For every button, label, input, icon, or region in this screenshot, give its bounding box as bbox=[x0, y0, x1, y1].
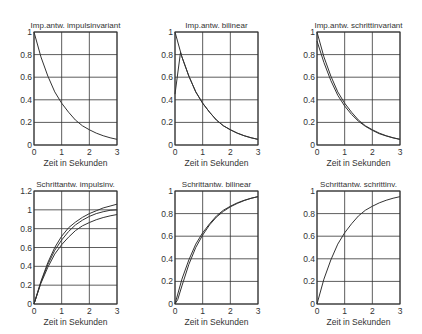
y-tick-label: 0.2 bbox=[303, 117, 315, 127]
y-tick-label: 0.6 bbox=[20, 72, 32, 82]
y-tick-label: 0.4 bbox=[303, 95, 315, 105]
y-tick-label: 0.4 bbox=[303, 254, 315, 264]
y-tick-label: 0 bbox=[310, 140, 315, 150]
x-tick-label: 1 bbox=[200, 306, 205, 316]
y-tick-label: 0.8 bbox=[20, 50, 32, 60]
subplot-title: Imp.antw. impulsinvariant bbox=[31, 21, 122, 30]
series-line bbox=[34, 215, 117, 304]
y-tick-label: 0.2 bbox=[161, 117, 173, 127]
series-line bbox=[175, 32, 258, 139]
y-tick-label: 0.2 bbox=[161, 276, 173, 286]
series-line bbox=[317, 197, 400, 304]
y-tick-label: 1.2 bbox=[20, 186, 32, 196]
series-line bbox=[34, 204, 117, 304]
x-tick-label: 3 bbox=[256, 147, 261, 157]
y-tick-label: 0.4 bbox=[20, 95, 32, 105]
y-tick-label: 0.6 bbox=[20, 243, 32, 253]
y-tick-label: 0.8 bbox=[161, 50, 173, 60]
y-tick-label: 0.8 bbox=[20, 224, 32, 234]
y-tick-label: 0.4 bbox=[20, 261, 32, 271]
series-line bbox=[175, 197, 258, 304]
y-tick-label: 1 bbox=[168, 186, 173, 196]
x-tick-label: 1 bbox=[342, 306, 347, 316]
y-tick-label: 0.8 bbox=[303, 50, 315, 60]
x-tick-label: 1 bbox=[59, 147, 64, 157]
x-tick-label: 2 bbox=[370, 147, 375, 157]
y-tick-label: 0.2 bbox=[20, 117, 32, 127]
y-tick-label: 0.6 bbox=[303, 231, 315, 241]
x-tick-label: 3 bbox=[256, 306, 261, 316]
subplot-step-impulsinv: 012300.20.40.60.811.2Schrittantw. impuls… bbox=[20, 180, 119, 327]
x-tick-label: 2 bbox=[87, 306, 92, 316]
y-tick-label: 0.4 bbox=[161, 95, 173, 105]
x-tick-label: 0 bbox=[32, 147, 37, 157]
y-tick-label: 1 bbox=[310, 186, 315, 196]
subplot-title: Schrittantw. impulsinv. bbox=[36, 180, 115, 189]
x-axis-label: Zeit in Sekunden bbox=[185, 158, 249, 168]
x-tick-label: 1 bbox=[342, 147, 347, 157]
x-tick-label: 3 bbox=[115, 147, 120, 157]
series-line bbox=[317, 41, 400, 139]
axes-frame bbox=[175, 191, 258, 304]
axes-frame bbox=[175, 32, 258, 145]
y-tick-label: 0.2 bbox=[20, 280, 32, 290]
x-axis-label: Zeit in Sekunden bbox=[44, 158, 108, 168]
x-tick-label: 2 bbox=[370, 306, 375, 316]
subplot-title: Imp.antw. schrittinvariant bbox=[314, 21, 403, 30]
x-tick-label: 1 bbox=[59, 306, 64, 316]
y-tick-label: 0.2 bbox=[303, 276, 315, 286]
axes-frame bbox=[317, 191, 400, 304]
x-tick-label: 1 bbox=[200, 147, 205, 157]
x-tick-label: 2 bbox=[87, 147, 92, 157]
x-tick-label: 0 bbox=[32, 306, 37, 316]
series-line bbox=[34, 32, 117, 139]
x-tick-label: 0 bbox=[315, 306, 320, 316]
x-tick-label: 2 bbox=[228, 306, 233, 316]
subplot-title: Schrittantw. bilinear bbox=[182, 180, 252, 189]
x-tick-label: 0 bbox=[173, 306, 178, 316]
series-line bbox=[34, 210, 117, 304]
y-tick-label: 0.6 bbox=[161, 72, 173, 82]
y-tick-label: 0 bbox=[310, 299, 315, 309]
y-tick-label: 0 bbox=[27, 299, 32, 309]
y-tick-label: 0.8 bbox=[303, 209, 315, 219]
y-tick-label: 0.6 bbox=[303, 72, 315, 82]
subplot-imp-impulsinvariant: 012300.20.40.60.81Imp.antw. impulsinvari… bbox=[20, 21, 121, 168]
subplot-title: Schrittantw. schrittinv. bbox=[320, 180, 397, 189]
x-tick-label: 3 bbox=[398, 306, 403, 316]
x-tick-label: 3 bbox=[115, 306, 120, 316]
y-tick-label: 0 bbox=[168, 140, 173, 150]
x-axis-label: Zeit in Sekunden bbox=[44, 317, 108, 327]
series-line bbox=[317, 32, 400, 139]
y-tick-label: 0.8 bbox=[161, 209, 173, 219]
y-tick-label: 1 bbox=[168, 27, 173, 37]
x-tick-label: 0 bbox=[173, 147, 178, 157]
x-axis-label: Zeit in Sekunden bbox=[327, 158, 391, 168]
x-axis-label: Zeit in Sekunden bbox=[327, 317, 391, 327]
series-line bbox=[175, 52, 258, 139]
subplot-imp-bilinear: 012300.20.40.60.81Imp.antw. bilinearZeit… bbox=[161, 21, 260, 168]
subplot-step-schrittinv: 012300.20.40.60.81Schrittantw. schrittin… bbox=[303, 180, 402, 327]
x-tick-label: 0 bbox=[315, 147, 320, 157]
subplot-title: Imp.antw. bilinear bbox=[185, 21, 248, 30]
y-tick-label: 0.6 bbox=[161, 231, 173, 241]
axes-frame bbox=[34, 32, 117, 145]
axes-frame bbox=[317, 32, 400, 145]
series-line bbox=[175, 197, 258, 304]
x-tick-label: 2 bbox=[228, 147, 233, 157]
y-tick-label: 1 bbox=[27, 205, 32, 215]
y-tick-label: 0 bbox=[168, 299, 173, 309]
y-tick-label: 0 bbox=[27, 140, 32, 150]
x-tick-label: 3 bbox=[398, 147, 403, 157]
subplot-step-bilinear: 012300.20.40.60.81Schrittantw. bilinearZ… bbox=[161, 180, 260, 327]
subplot-imp-schrittinvariant: 012300.20.40.60.81Imp.antw. schrittinvar… bbox=[303, 21, 403, 168]
figure: 012300.20.40.60.81Imp.antw. impulsinvari… bbox=[0, 0, 422, 334]
x-axis-label: Zeit in Sekunden bbox=[185, 317, 249, 327]
y-tick-label: 0.4 bbox=[161, 254, 173, 264]
